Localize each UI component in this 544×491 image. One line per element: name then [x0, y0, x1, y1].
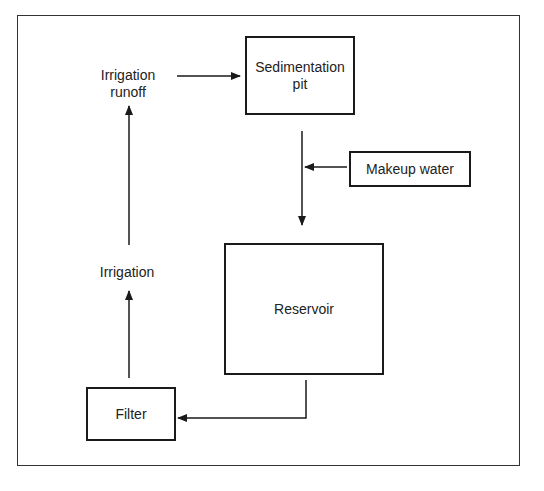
reservoir-label: Reservoir — [274, 301, 334, 318]
irrigation-label: Irrigation — [87, 264, 167, 281]
filter-label: Filter — [115, 406, 146, 423]
arrow-reservoir-to-filter — [178, 380, 306, 418]
irrigation-runoff-line1: Irrigation — [88, 67, 168, 84]
reservoir-box: Reservoir — [224, 243, 384, 375]
irrigation-runoff-label: Irrigation runoff — [88, 67, 168, 101]
sedimentation-pit-line2: pit — [255, 76, 345, 93]
irrigation-runoff-line2: runoff — [88, 84, 168, 101]
sedimentation-pit-box: Sedimentation pit — [245, 36, 355, 115]
makeup-water-label: Makeup water — [366, 161, 454, 178]
makeup-water-box: Makeup water — [349, 151, 471, 187]
irrigation-text: Irrigation — [100, 264, 154, 280]
filter-box: Filter — [86, 387, 176, 441]
sedimentation-pit-line1: Sedimentation — [255, 59, 345, 76]
